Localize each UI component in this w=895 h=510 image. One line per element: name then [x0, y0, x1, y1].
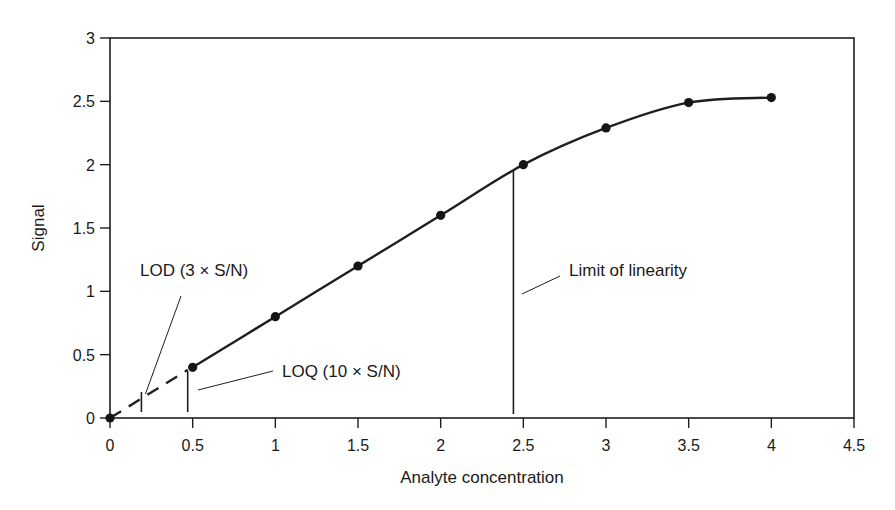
annotations: LOD (3 × S/N)LOQ (10 × S/N)Limit of line…: [140, 171, 688, 414]
y-tick-label: 3: [86, 30, 95, 47]
y-tick-label: 2: [86, 157, 95, 174]
data-point-marker: [601, 123, 610, 132]
plot-frame: [110, 38, 854, 418]
data-point-marker: [767, 93, 776, 102]
x-tick-label: 0: [106, 437, 115, 454]
y-tick-label: 0: [86, 410, 95, 427]
limit-of-linearity-leader-line: [522, 276, 560, 294]
data-point-marker: [271, 312, 280, 321]
y-tick-label: 1.5: [73, 220, 95, 237]
data-point-marker: [105, 413, 114, 422]
x-tick-label: 4: [767, 437, 776, 454]
data-point-marker: [684, 98, 693, 107]
x-tick-label: 4.5: [843, 437, 865, 454]
y-tick-label: 0.5: [73, 347, 95, 364]
data-series: [105, 93, 776, 423]
y-axis-ticks: 00.511.522.53: [73, 30, 110, 427]
lod-leader-line: [145, 296, 181, 394]
data-point-marker: [436, 211, 445, 220]
y-axis-title: Signal: [29, 204, 48, 251]
x-tick-label: 3: [602, 437, 611, 454]
x-tick-label: 1: [271, 437, 280, 454]
x-tick-label: 1.5: [347, 437, 369, 454]
data-point-marker: [519, 160, 528, 169]
x-axis-title: Analyte concentration: [400, 468, 564, 487]
data-point-marker: [353, 261, 362, 270]
x-tick-label: 2: [436, 437, 445, 454]
y-tick-label: 2.5: [73, 93, 95, 110]
calibration-chart: 00.511.522.533.544.5 00.511.522.53 LOD (…: [0, 0, 895, 510]
y-tick-label: 1: [86, 283, 95, 300]
x-tick-label: 3.5: [678, 437, 700, 454]
x-tick-label: 2.5: [512, 437, 534, 454]
lod-label: LOD (3 × S/N): [140, 261, 248, 280]
limit-of-linearity-label: Limit of linearity: [569, 261, 688, 280]
loq-leader-line: [198, 371, 273, 390]
x-axis-ticks: 00.511.522.533.544.5: [106, 418, 866, 454]
data-point-marker: [188, 363, 197, 372]
loq-label: LOQ (10 × S/N): [282, 362, 401, 381]
x-tick-label: 0.5: [182, 437, 204, 454]
axes-box: [110, 38, 854, 418]
calibration-curve: [193, 98, 772, 368]
dashed-extrapolation-line: [110, 370, 188, 418]
